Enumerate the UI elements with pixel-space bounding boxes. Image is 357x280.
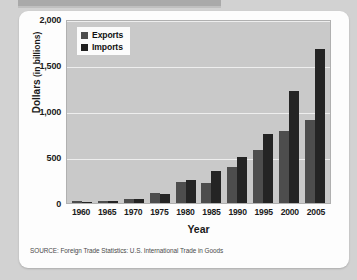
legend-label: Imports [92, 42, 123, 52]
bar-exports-1985 [201, 183, 211, 203]
exports-swatch-icon [81, 32, 88, 39]
bar-imports-1970 [134, 199, 144, 203]
x-axis-tick-label: 1990 [225, 207, 251, 217]
y-axis-tick-label: 0 [56, 199, 61, 209]
x-axis-tick-list: 1960196519701975198019851990199520002005 [66, 207, 331, 217]
y-axis-tick-label: 500 [47, 153, 61, 163]
bar-imports-1990 [237, 157, 247, 203]
bar-imports-1965 [108, 201, 118, 203]
x-axis-tick-label: 1995 [251, 207, 277, 217]
x-axis-tick-label: 1970 [120, 207, 146, 217]
x-axis-tick-label: 1985 [199, 207, 225, 217]
imports-swatch-icon [81, 44, 88, 51]
bar-imports-1980 [186, 180, 196, 203]
bar-exports-1965 [98, 201, 108, 203]
legend-item-exports[interactable]: Exports [81, 30, 123, 40]
x-axis-tick-label: 2000 [277, 207, 303, 217]
x-axis-tick-label: 1975 [146, 207, 172, 217]
top-cutoff-strip-shadow [18, 6, 221, 8]
bar-exports-1975 [150, 193, 160, 203]
legend-item-imports[interactable]: Imports [81, 42, 123, 52]
y-axis-tick-label: 1,000 [39, 107, 61, 117]
bar-imports-1995 [263, 134, 273, 203]
bar-imports-1985 [211, 171, 221, 203]
y-axis-tick-label: 2,000 [39, 15, 61, 25]
bar-exports-2000 [279, 131, 289, 203]
bar-imports-1975 [160, 194, 170, 203]
bar-exports-1990 [227, 167, 237, 203]
bar-group-1980 [176, 21, 196, 203]
x-axis-tick-label: 1965 [94, 207, 120, 217]
bar-group-2000 [279, 21, 299, 203]
bar-group-2005 [305, 21, 325, 203]
x-axis-tick-label: 1960 [68, 207, 94, 217]
bar-imports-1960 [82, 202, 92, 203]
bar-exports-1995 [253, 150, 263, 203]
x-axis-tick-label: 1980 [172, 207, 198, 217]
bar-exports-1960 [72, 201, 82, 203]
bar-exports-1980 [176, 182, 186, 203]
bar-group-1990 [227, 21, 247, 203]
legend-label: Exports [92, 30, 123, 40]
bar-imports-2000 [289, 91, 299, 203]
x-axis-title: Year [66, 223, 331, 235]
x-axis-tick-label: 2005 [303, 207, 329, 217]
bar-exports-2005 [305, 120, 315, 203]
bar-group-1975 [150, 21, 170, 203]
chart-legend: ExportsImports [77, 27, 130, 55]
bar-group-1995 [253, 21, 273, 203]
chart-figure-card: Dollars (in billions) 05001,0001,5002,00… [19, 11, 349, 268]
bar-exports-1970 [124, 199, 134, 203]
y-axis-tick-list: 05001,0001,5002,000 [19, 20, 64, 204]
source-note: SOURCE: Foreign Trade Statistics: U.S. I… [30, 247, 223, 254]
bar-group-1985 [201, 21, 221, 203]
y-axis-tick-label: 1,500 [39, 61, 61, 71]
bar-imports-2005 [315, 49, 325, 203]
